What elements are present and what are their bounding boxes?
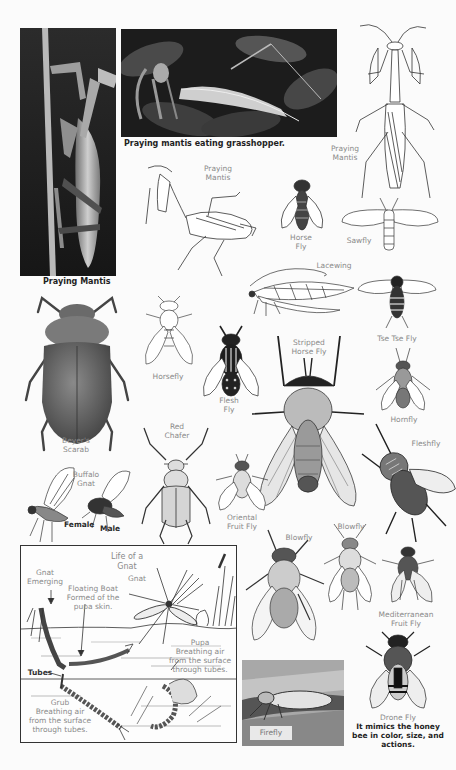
- praying-mantis-right-label: Praying Mantis: [328, 144, 362, 162]
- praying-mantis-caption: Praying Mantis: [43, 277, 111, 286]
- red-chafer-label: Red Chafer: [160, 422, 194, 440]
- mantis-eating-grasshopper-caption: Praying mantis eating grasshopper.: [124, 139, 285, 148]
- praying-mantis-photo: [20, 28, 116, 276]
- fleshfly-label: Fleshfly: [404, 439, 448, 448]
- mantis-eating-grasshopper-photo: [121, 29, 337, 137]
- oriental-fruit-fly-label: Oriental Fruit Fly: [218, 513, 266, 531]
- female-label: Female: [64, 520, 94, 529]
- horse-fly-label: Horse Fly: [286, 233, 316, 251]
- firefly-caption: Firefly: [252, 728, 290, 737]
- red-chafer-illustration: [140, 424, 212, 544]
- blowfly-right-illustration: [322, 524, 378, 610]
- gnat-diagram-title: Life of a Gnat: [99, 552, 155, 572]
- lacewing-label: Lacewing: [314, 261, 354, 270]
- lacewing-illustration: [244, 266, 356, 322]
- grub-label: Grub Breathing air from the surface thro…: [23, 698, 97, 734]
- floating-boat-label: Floating Boat Formed of the pupa skin.: [61, 584, 125, 611]
- male-label: Male: [100, 524, 120, 533]
- tse-tse-fly-illustration: [356, 266, 438, 332]
- praying-mantis-sketch-label: Praying Mantis: [198, 164, 238, 182]
- pupa-label: Pupa Breathing air from the surface thro…: [163, 638, 237, 674]
- gnat-label: Gnat: [125, 574, 149, 583]
- hornfly-label: Hornfly: [384, 415, 424, 424]
- buffalo-gnat-label: Buffalo Gnat: [68, 470, 104, 488]
- sawfly-illustration: [340, 196, 440, 260]
- sawfly-label: Sawfly: [344, 236, 374, 245]
- beyers-scarab-label: Beyer's Scarab: [56, 436, 96, 454]
- flesh-fly-label: Flesh Fly: [212, 396, 246, 414]
- stripped-horse-fly-label: Stripped Horse Fly: [286, 338, 332, 356]
- drone-fly-note: It mimics the honey bee in color, size, …: [350, 722, 446, 749]
- drone-fly-illustration: [362, 626, 434, 712]
- tse-tse-fly-label: Tse Tse Fly: [370, 334, 424, 343]
- blowfly-left-illustration: [242, 530, 326, 646]
- blowfly-right-label: Blowfly: [334, 522, 368, 531]
- tubes-label: Tubes: [27, 668, 53, 677]
- blowfly-left-label: Blowfly: [282, 533, 316, 542]
- firefly-photo: Firefly: [242, 660, 344, 746]
- horsefly-label: Horsefly: [146, 372, 190, 381]
- oriental-fruit-fly-illustration: [212, 452, 272, 514]
- horsefly-illustration: [138, 292, 200, 370]
- mediterranean-fruit-fly-illustration: [378, 540, 438, 610]
- life-of-a-gnat-diagram: Life of a Gnat Gnat Emerging Gnat Floati…: [20, 545, 237, 743]
- hornfly-illustration: [374, 346, 432, 416]
- drone-fly-label: Drone Fly: [374, 713, 422, 722]
- praying-mantis-illustration: [348, 12, 438, 202]
- beyers-scarab-illustration: [20, 292, 134, 452]
